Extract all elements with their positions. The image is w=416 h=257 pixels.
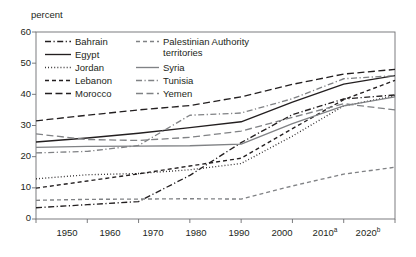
line-chart: percent 60 50 40 30 20 10 0 1950 1960 19…	[0, 0, 416, 257]
chart-canvas	[0, 0, 416, 257]
series-line-yemen	[36, 104, 395, 141]
series-layer	[36, 69, 395, 207]
axis-layer	[32, 32, 395, 223]
series-line-egypt	[36, 76, 395, 142]
series-line-morocco	[36, 69, 395, 120]
series-line-palestinian-authority-territories	[36, 167, 395, 200]
legend-swatch-layer	[45, 42, 159, 94]
